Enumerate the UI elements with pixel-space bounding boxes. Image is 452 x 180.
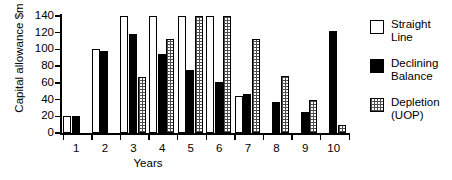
y-axis-tick-label-wrap: 0 — [0, 127, 54, 137]
bar-depletion — [281, 76, 289, 133]
bar-straight — [120, 16, 128, 133]
bar-group — [91, 16, 120, 133]
bar-group — [148, 16, 177, 133]
legend-label: Straight Line — [391, 18, 452, 43]
bar-depletion — [252, 39, 260, 133]
y-axis-tick — [55, 49, 62, 51]
bar-declining — [329, 31, 337, 133]
bar-declining — [158, 54, 166, 133]
y-axis-tick — [55, 82, 62, 84]
y-axis-tick-label: 100 — [28, 43, 54, 53]
y-axis-tick-label: 140 — [28, 10, 54, 20]
x-axis-tick-label: 2 — [93, 142, 117, 154]
bar-group — [262, 16, 291, 133]
x-axis-tick-label: 10 — [322, 142, 346, 154]
x-axis-tick — [148, 135, 150, 140]
bar-group — [319, 16, 348, 133]
legend-item: Declining Balance — [370, 57, 452, 83]
bar-straight — [178, 16, 186, 133]
bar-group — [62, 16, 91, 133]
x-axis-tick — [234, 135, 236, 140]
x-axis-tick — [349, 135, 351, 140]
legend-swatch-declining — [370, 59, 384, 73]
bar-declining — [215, 82, 223, 133]
y-axis-tick-label-wrap: 40 — [0, 94, 54, 104]
y-axis-tick-label: 60 — [28, 77, 54, 87]
bar-declining — [72, 116, 80, 133]
bar-depletion — [138, 77, 146, 133]
x-axis-tick — [63, 135, 65, 140]
x-axis-tick-label: 4 — [150, 142, 174, 154]
legend-item: Depletion (UOP) — [370, 96, 452, 122]
y-axis-tick-label: 20 — [28, 110, 54, 120]
bar-group — [176, 16, 205, 133]
bar-group — [119, 16, 148, 133]
legend-label: Depletion (UOP) — [391, 96, 452, 121]
bar-straight — [235, 96, 243, 133]
y-axis-tick — [55, 65, 62, 67]
y-axis-tick-label: 0 — [28, 127, 54, 137]
y-axis-tick — [55, 132, 62, 134]
bar-straight — [206, 16, 214, 133]
x-axis-tick-label: 8 — [265, 142, 289, 154]
y-axis-tick-label: 120 — [28, 27, 54, 37]
legend-swatch-straight — [370, 20, 384, 34]
x-axis-title: Years — [0, 157, 452, 169]
x-axis-tick-label: 6 — [207, 142, 231, 154]
bar-declining — [186, 70, 194, 134]
bar-straight — [92, 49, 100, 133]
plot-area — [62, 16, 348, 133]
y-axis-tick-label-wrap: 140 — [0, 10, 54, 20]
y-axis-tick — [55, 99, 62, 101]
x-axis-tick-label: 7 — [236, 142, 260, 154]
x-axis-tick — [120, 135, 122, 140]
bar-declining — [100, 51, 108, 133]
bar-depletion — [223, 16, 231, 133]
y-axis-tick — [55, 15, 62, 17]
x-axis-tick-label: 1 — [64, 142, 88, 154]
x-axis-tick — [291, 135, 293, 140]
legend-item: Straight Line — [370, 18, 452, 44]
bar-declining — [301, 112, 309, 133]
bar-straight — [149, 16, 157, 133]
y-axis-tick-label: 80 — [28, 60, 54, 70]
bar-group — [234, 16, 263, 133]
bar-depletion — [166, 39, 174, 133]
y-axis-tick-label: 40 — [28, 94, 54, 104]
x-axis-tick — [177, 135, 179, 140]
bar-depletion — [195, 16, 203, 133]
bar-declining — [243, 94, 251, 133]
bar-group — [291, 16, 320, 133]
bar-declining — [272, 102, 280, 133]
x-axis-tick-label: 9 — [293, 142, 317, 154]
chart-figure: Capital allowance $m 020406080100120140 … — [0, 0, 452, 180]
bar-declining — [129, 34, 137, 133]
x-axis-tick — [91, 135, 93, 140]
y-axis-tick-label-wrap: 20 — [0, 110, 54, 120]
bar-straight — [63, 116, 71, 133]
bar-depletion — [309, 100, 317, 133]
y-axis-tick-label-wrap: 100 — [0, 43, 54, 53]
legend-swatch-depletion — [370, 98, 384, 112]
y-axis-tick-label-wrap: 80 — [0, 60, 54, 70]
x-axis-tick-label: 5 — [179, 142, 203, 154]
x-axis-tick-label: 3 — [122, 142, 146, 154]
x-axis-tick — [320, 135, 322, 140]
y-axis-tick — [55, 32, 62, 34]
x-axis-tick — [263, 135, 265, 140]
x-axis-tick — [206, 135, 208, 140]
legend-label: Declining Balance — [391, 57, 452, 82]
bar-group — [205, 16, 234, 133]
chart-legend: Straight LineDeclining BalanceDepletion … — [370, 18, 452, 135]
y-axis-tick-label-wrap: 60 — [0, 77, 54, 87]
bar-depletion — [338, 125, 346, 133]
y-axis-tick — [55, 116, 62, 118]
x-axis-title-text: Years — [134, 157, 163, 169]
y-axis-tick-label-wrap: 120 — [0, 27, 54, 37]
